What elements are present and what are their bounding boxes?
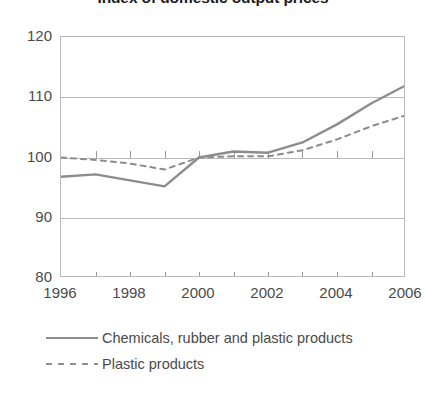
x-tick-label-2000: 2000 <box>168 285 228 300</box>
legend-label-chemicals-rubber-plastic: Chemicals, rubber and plastic products <box>102 331 353 346</box>
legend-solid-line-icon <box>46 332 102 344</box>
y-tick-label-90: 90 <box>4 209 52 224</box>
x-tick-label-1996: 1996 <box>30 285 90 300</box>
x-tick-label-2006: 2006 <box>375 285 426 300</box>
y-tick-label-120: 120 <box>4 28 52 43</box>
legend-item-plastic-products: Plastic products <box>46 351 426 377</box>
chart-legend: Chemicals, rubber and plastic products P… <box>46 325 426 377</box>
x-tick-label-2004: 2004 <box>306 285 366 300</box>
series-line-0 <box>61 85 405 186</box>
y-tick-label-110: 110 <box>4 88 52 103</box>
legend-dashed-line-icon <box>46 358 102 370</box>
x-tick-label-1998: 1998 <box>99 285 159 300</box>
x-axis-labels: 199619982000200220042006 <box>0 285 426 305</box>
chart-title: Index of domestic output prices <box>0 0 426 7</box>
series-line-1 <box>61 115 405 169</box>
y-tick-label-80: 80 <box>4 269 52 284</box>
y-axis-labels: 8090100110120 <box>0 0 52 395</box>
plot-area <box>60 36 405 277</box>
y-tick-label-100: 100 <box>4 149 52 164</box>
x-tick-label-2002: 2002 <box>237 285 297 300</box>
data-series-layer <box>61 37 405 277</box>
legend-label-plastic-products: Plastic products <box>102 357 204 372</box>
chart-figure: Index of domestic output prices 80901001… <box>0 0 426 395</box>
legend-item-chemicals-rubber-plastic: Chemicals, rubber and plastic products <box>46 325 426 351</box>
